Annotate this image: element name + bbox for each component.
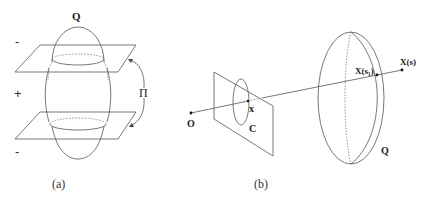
plane-bottom: [15, 112, 136, 139]
ray-hidden: [248, 98, 262, 101]
quadric-a-hidden-top-right: [104, 62, 108, 80]
quadric-label-a: Q: [72, 10, 81, 22]
cross-section-bottom-back: [50, 118, 106, 124]
center-label: O: [187, 118, 195, 129]
sign-top: -: [15, 34, 19, 49]
sign-middle: +: [14, 86, 22, 101]
intersection-label: X(s₁): [355, 66, 374, 76]
panel-b: O x C X(s₁) X(s) Q (b): [187, 32, 416, 191]
quadric-a-hidden-top-left: [48, 62, 52, 80]
sign-bottom: -: [15, 144, 19, 159]
ray-point: [401, 69, 404, 72]
planes-label: Π: [139, 86, 148, 100]
intersection-point: [376, 74, 379, 77]
quadric-b-meridian-front: [351, 32, 377, 164]
quadric-b-meridian-back: [345, 32, 351, 164]
caption-a: (a): [52, 177, 65, 191]
ray-point-label: X(s): [400, 57, 416, 67]
quadric-label-b: Q: [381, 145, 389, 156]
figure: Q Π - + - (a) O x C X(s₁) X(s) Q (b): [0, 0, 429, 201]
quadric-a-top: [52, 27, 104, 62]
caption-b: (b): [254, 177, 268, 191]
image-point-x: [247, 100, 249, 102]
conic-c: [233, 79, 249, 125]
arrowhead-bottom: [129, 123, 134, 127]
cross-section-top-back: [52, 54, 104, 59]
plane-top: [15, 45, 136, 72]
image-plane: [214, 72, 273, 156]
center-point-o: [190, 112, 193, 115]
cross-section-bottom-front: [50, 124, 106, 130]
quadric-a-bottom: [52, 126, 104, 159]
quadric-a-middle-right: [107, 68, 111, 122]
ray-front: [191, 101, 248, 113]
panel-a: Q Π - + - (a): [14, 10, 148, 191]
cross-section-top-front: [52, 59, 104, 65]
quadric-a-middle-left: [45, 68, 49, 122]
image-point-label: x: [249, 103, 254, 114]
conic-label: C: [249, 123, 256, 134]
ray-back: [262, 70, 402, 98]
quadric-b: [318, 32, 384, 164]
